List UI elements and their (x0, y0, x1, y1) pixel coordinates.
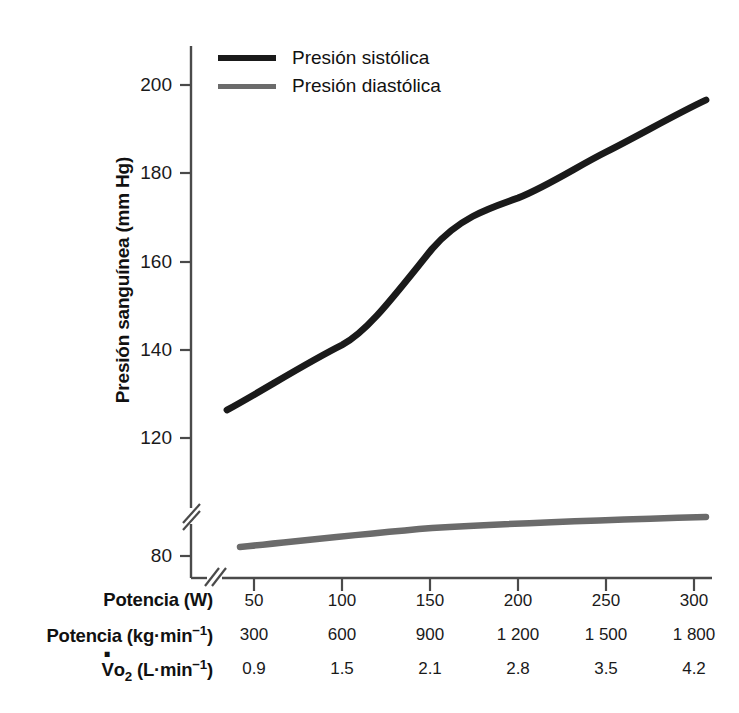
axis-cell-vo2-5: 4.2 (651, 659, 737, 679)
axis-cell-vo2-0: 0.9 (211, 659, 297, 679)
legend-item-sistolica: Presión sistólica (218, 44, 441, 72)
axis-cell-potencia-kgmin-3: 1 200 (475, 625, 561, 645)
axis-cell-vo2-2: 2.1 (387, 659, 473, 679)
legend-label-diastolica: Presión diastólica (292, 75, 441, 97)
legend-label-sistolica: Presión sistólica (292, 47, 429, 69)
blood-pressure-chart-figure: Presión sanguínea (mm Hg) 200 180 160 14… (0, 0, 739, 713)
axis-cell-potencia-w-3: 200 (475, 591, 561, 611)
y-tick-label-200: 200 (126, 74, 172, 96)
axis-cell-potencia-w-1: 100 (299, 591, 385, 611)
y-tick-label-80: 80 (126, 545, 172, 567)
axis-row-potencia-w: Potencia (W) 50 100 150 200 250 300 (0, 586, 739, 620)
axis-cell-potencia-kgmin-4: 1 500 (563, 625, 649, 645)
axis-row-vo2: Vo2 (L·min−1) 0.9 1.5 2.1 2.8 3.5 4.2 (0, 654, 739, 688)
axis-row-label-potencia-w: Potencia (W) (103, 589, 213, 611)
y-tick-label-120: 120 (126, 427, 172, 449)
y-tick-label-140: 140 (126, 339, 172, 361)
x-axis-label-table: Potencia (W) 50 100 150 200 250 300 Pote… (0, 586, 739, 688)
axis-cell-potencia-kgmin-1: 600 (299, 625, 385, 645)
y-tick-label-160: 160 (126, 251, 172, 273)
axis-row-label-potencia-kgmin: Potencia (kg·min−1) (46, 623, 213, 647)
axis-row-label-vo2: Vo2 (L·min−1) (102, 657, 213, 684)
axis-cell-potencia-w-0: 50 (211, 591, 297, 611)
axis-cell-potencia-kgmin-0: 300 (211, 625, 297, 645)
axis-cell-potencia-w-4: 250 (563, 591, 649, 611)
legend-item-diastolica: Presión diastólica (218, 72, 441, 100)
axis-cell-potencia-kgmin-2: 900 (387, 625, 473, 645)
series-line-sistolica (227, 100, 706, 410)
chart-legend: Presión sistólica Presión diastólica (218, 44, 441, 100)
legend-swatch-sistolica (218, 55, 276, 61)
axis-cell-potencia-w-2: 150 (387, 591, 473, 611)
axis-cell-vo2-3: 2.8 (475, 659, 561, 679)
axis-cell-potencia-kgmin-5: 1 800 (651, 625, 737, 645)
series-line-diastolica (240, 517, 706, 547)
axis-cell-vo2-4: 3.5 (563, 659, 649, 679)
axis-cell-potencia-w-5: 300 (651, 591, 737, 611)
y-tick-label-180: 180 (126, 162, 172, 184)
legend-swatch-diastolica (218, 84, 276, 89)
axis-cell-vo2-1: 1.5 (299, 659, 385, 679)
y-axis-ticks (180, 85, 191, 556)
